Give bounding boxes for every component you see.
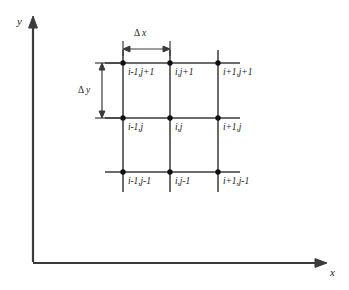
delta-y-arrowhead-bottom <box>99 111 105 118</box>
delta-x-symbol: Δ <box>134 28 140 38</box>
diagram-canvas <box>0 0 349 290</box>
grid-node <box>167 169 172 174</box>
node-label-i-j: i,j <box>175 122 182 132</box>
y-axis-arrowhead <box>29 16 38 28</box>
grid-node <box>120 115 125 120</box>
grid-node <box>167 115 172 120</box>
node-label-im1-jm1: i-1,j-1 <box>128 176 151 186</box>
node-label-i-jp1: i,j+1 <box>175 67 193 77</box>
grid-node <box>215 169 220 174</box>
node-label-im1-j: i-1,j <box>128 122 143 132</box>
delta-y-arrowhead-top <box>99 63 105 70</box>
delta-x-dimension <box>123 41 170 56</box>
delta-y-symbol: Δ <box>78 85 84 95</box>
x-axis-arrowhead <box>315 259 327 268</box>
grid-node <box>215 115 220 120</box>
node-label-ip1-jp1: i+1,j+1 <box>223 67 252 77</box>
y-axis-label: y <box>17 15 22 27</box>
delta-y-dimension <box>95 63 121 118</box>
grid-node <box>215 60 220 65</box>
node-label-i-jm1: i,j-1 <box>175 176 190 186</box>
grid-node <box>167 60 172 65</box>
delta-x-arrowhead-right <box>163 46 170 52</box>
grid-node <box>120 60 125 65</box>
node-label-im1-jp1: i-1,j+1 <box>128 67 154 77</box>
delta-x-variable: x <box>142 28 146 38</box>
grid-node <box>120 169 125 174</box>
delta-x-arrowhead-left <box>123 46 130 52</box>
delta-x-label: Δx <box>134 28 146 38</box>
finite-difference-grid-figure: y x Δx Δy i-1,j+1 i,j+1 i+1,j+1 i-1,j i,… <box>0 0 349 290</box>
node-label-ip1-jm1: i+1,j-1 <box>223 176 249 186</box>
delta-y-label: Δy <box>78 85 90 95</box>
axes-group <box>29 16 327 267</box>
delta-y-variable: y <box>86 85 90 95</box>
node-label-ip1-j: i+1,j <box>223 122 241 132</box>
x-axis-label: x <box>330 266 335 278</box>
